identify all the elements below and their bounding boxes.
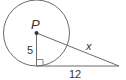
radius-label: 5	[27, 44, 33, 56]
hypotenuse-label: x	[85, 40, 92, 52]
hypotenuse-segment	[37, 33, 120, 66]
center-label: P	[31, 17, 40, 32]
geometry-diagram: P 5 12 x	[0, 0, 126, 80]
right-angle-marker	[37, 60, 44, 67]
tangent-label: 12	[69, 68, 81, 80]
